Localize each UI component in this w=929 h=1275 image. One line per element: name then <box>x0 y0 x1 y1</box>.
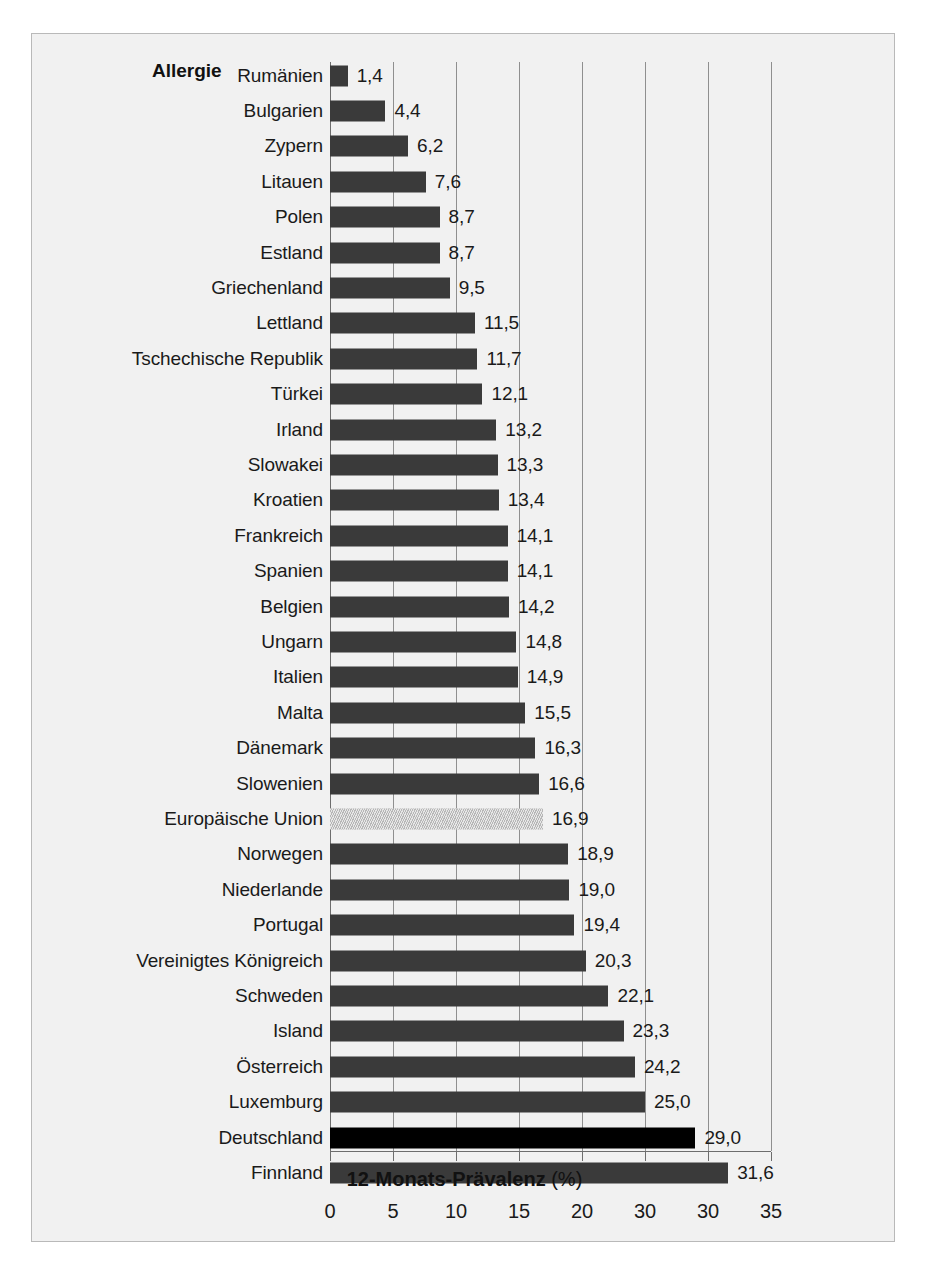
bar-row[interactable]: Niederlande19,0 <box>0 872 929 907</box>
category-label: Slowenien <box>236 773 323 795</box>
bar[interactable] <box>330 702 525 723</box>
bar[interactable] <box>330 1021 624 1042</box>
category-label: Irland <box>276 419 323 441</box>
axis-tick <box>708 1152 709 1161</box>
bar[interactable] <box>330 1127 695 1148</box>
bar-row[interactable]: Slowenien16,6 <box>0 766 929 801</box>
bar[interactable] <box>330 596 509 617</box>
bar-row[interactable]: Tschechische Republik11,7 <box>0 341 929 376</box>
bar-value-label: 16,3 <box>544 737 581 759</box>
category-label: Belgien <box>260 596 323 618</box>
bar-row[interactable]: Malta15,5 <box>0 695 929 730</box>
bar-value-label: 14,1 <box>517 525 554 547</box>
bar-value-label: 4,4 <box>394 100 420 122</box>
axis-tick-label: 15 <box>508 1200 530 1223</box>
bar-value-label: 22,1 <box>617 985 654 1007</box>
bar-row[interactable]: Lettland11,5 <box>0 306 929 341</box>
bar-row[interactable]: Bulgarien4,4 <box>0 93 929 128</box>
bar-row[interactable]: Türkei12,1 <box>0 377 929 412</box>
bar[interactable] <box>330 1092 645 1113</box>
bar-row[interactable]: Slowakei13,3 <box>0 447 929 482</box>
category-label: Deutschland <box>218 1127 323 1149</box>
bar-row[interactable]: Estland8,7 <box>0 235 929 270</box>
category-label: Litauen <box>261 171 323 193</box>
category-label: Türkei <box>271 383 323 405</box>
bar[interactable] <box>330 667 518 688</box>
bar-row[interactable]: Italien14,9 <box>0 660 929 695</box>
bar-row[interactable]: Österreich24,2 <box>0 1049 929 1084</box>
bar-value-label: 25,0 <box>654 1091 691 1113</box>
bar-value-label: 19,4 <box>583 914 620 936</box>
bar-value-label: 16,6 <box>548 773 585 795</box>
bar-row[interactable]: Norwegen18,9 <box>0 837 929 872</box>
bar-row[interactable]: Island23,3 <box>0 1014 929 1049</box>
bar[interactable] <box>330 313 475 334</box>
category-label: Vereinigtes Königreich <box>136 950 323 972</box>
bar[interactable] <box>330 65 348 86</box>
bar[interactable] <box>330 278 450 299</box>
bar[interactable] <box>330 773 539 794</box>
bar[interactable] <box>330 455 498 476</box>
bar[interactable] <box>330 525 508 546</box>
axis-tick-label: 0 <box>324 1200 335 1223</box>
category-label: Österreich <box>236 1056 323 1078</box>
category-label: Frankreich <box>234 525 323 547</box>
bar-row[interactable]: Rumänien1,4 <box>0 58 929 93</box>
bar[interactable] <box>330 419 496 440</box>
bar-row[interactable]: Polen8,7 <box>0 200 929 235</box>
bar-row[interactable]: Irland13,2 <box>0 412 929 447</box>
x-axis-title-main: 12-Monats-Prävalenz <box>347 1168 546 1190</box>
category-label: Estland <box>260 242 323 264</box>
bar-value-label: 7,6 <box>435 171 461 193</box>
bar[interactable] <box>330 915 574 936</box>
bar-row[interactable]: Dänemark16,3 <box>0 731 929 766</box>
bar-value-label: 14,1 <box>517 560 554 582</box>
bar-row[interactable]: Frankreich14,1 <box>0 518 929 553</box>
bar-row[interactable]: Griechenland9,5 <box>0 270 929 305</box>
category-label: Bulgarien <box>244 100 323 122</box>
bar-row[interactable]: Vereinigtes Königreich20,3 <box>0 943 929 978</box>
bar-row[interactable]: Kroatien13,4 <box>0 483 929 518</box>
bar-row[interactable]: Schweden22,1 <box>0 978 929 1013</box>
bar[interactable] <box>330 348 477 369</box>
bar-row[interactable]: Portugal19,4 <box>0 908 929 943</box>
category-label: Polen <box>275 206 323 228</box>
axis-tick <box>771 1152 772 1161</box>
bar-row[interactable]: Luxemburg25,0 <box>0 1085 929 1120</box>
bar-row[interactable]: Belgien14,2 <box>0 589 929 624</box>
bar[interactable] <box>330 207 440 228</box>
bar-value-label: 15,5 <box>534 702 571 724</box>
bar-row[interactable]: Litauen7,6 <box>0 164 929 199</box>
bar-row[interactable]: Europäische Union16,9 <box>0 801 929 836</box>
bar-value-label: 1,4 <box>357 65 383 87</box>
axis-tick-label: 35 <box>760 1200 782 1223</box>
bar[interactable] <box>330 632 516 653</box>
bar-row[interactable]: Zypern6,2 <box>0 129 929 164</box>
bar[interactable] <box>330 844 568 865</box>
category-label: Rumänien <box>237 65 323 87</box>
bar[interactable] <box>330 950 586 971</box>
bar-value-label: 19,0 <box>578 879 615 901</box>
bar-row[interactable]: Spanien14,1 <box>0 554 929 589</box>
bar[interactable] <box>330 136 408 157</box>
axis-tick <box>645 1152 646 1161</box>
bar[interactable] <box>330 879 569 900</box>
bar-row[interactable]: Ungarn14,8 <box>0 624 929 659</box>
bar-value-label: 14,8 <box>525 631 562 653</box>
category-label: Tschechische Republik <box>132 348 323 370</box>
bar[interactable] <box>330 242 440 263</box>
x-axis-title: 12-Monats-Prävalenz (%) <box>0 1168 929 1191</box>
bar[interactable] <box>330 490 499 511</box>
bar[interactable] <box>330 101 385 122</box>
bar-value-label: 13,2 <box>505 419 542 441</box>
category-label: Dänemark <box>236 737 323 759</box>
bar[interactable] <box>330 384 482 405</box>
bar[interactable] <box>330 1056 635 1077</box>
bar[interactable] <box>330 561 508 582</box>
bar[interactable] <box>330 171 426 192</box>
bar[interactable] <box>330 809 543 830</box>
bar-value-label: 8,7 <box>449 206 475 228</box>
bar[interactable] <box>330 986 608 1007</box>
chart-page: Allergie Rumänien1,4Bulgarien4,4Zypern6,… <box>0 0 929 1275</box>
bar[interactable] <box>330 738 535 759</box>
